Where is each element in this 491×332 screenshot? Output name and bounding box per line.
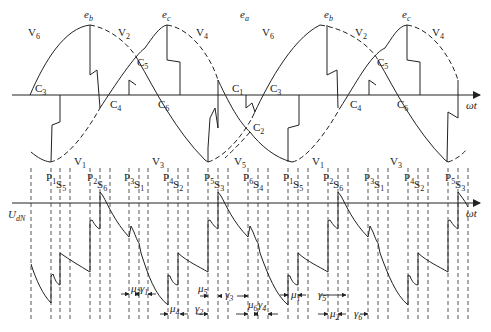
emf-label: ec <box>162 8 171 23</box>
voltage-labels-bottom: V1V3V5V1V3 <box>74 155 402 170</box>
voltage-label: V6 <box>28 26 40 41</box>
voltage-label: V3 <box>390 155 402 170</box>
udn-waveform <box>31 192 468 305</box>
interval-label: μ6 <box>247 298 258 313</box>
emf-label: eb <box>84 8 93 23</box>
pulse-label: S6 <box>97 178 107 193</box>
pulse-label: P5 <box>204 171 214 186</box>
pulse-labels: P1S5P2S6P3S1P4S2P5S3P6S4P1S5P2S6P3S1P4S2… <box>46 171 465 193</box>
commutation-label: C4 <box>350 98 361 113</box>
commutation-label: C2 <box>253 121 264 136</box>
interval-label: μ1 <box>290 288 301 303</box>
interval-label: γ1 <box>140 282 148 297</box>
voltage-label: V4 <box>432 26 444 41</box>
voltage-label: V1 <box>312 155 324 170</box>
interval-label: γ5 <box>318 288 326 303</box>
interval-label: γ4 <box>258 298 266 313</box>
interval-label: μ5 <box>197 282 208 297</box>
commutation-labels: C3C5C4C6C1C2C3C4C5C6 <box>35 56 408 136</box>
top-panel: ebeceaebec V6V2V4V6V2V4 V1V3V5V1V3 C3C5C… <box>12 8 480 170</box>
pulse-label: S2 <box>414 178 424 193</box>
emf-label: eb <box>324 8 333 23</box>
emf-labels: ebeceaebec <box>84 8 411 23</box>
commutation-label: C4 <box>110 98 121 113</box>
bottom-axis-label: ωt <box>466 207 478 219</box>
interval-label: γ3 <box>225 288 233 303</box>
pulse-label: P4 <box>404 171 414 186</box>
pulse-label: S3 <box>214 178 224 193</box>
pulse-label: P5 <box>445 171 455 186</box>
pulse-label: S3 <box>455 178 465 193</box>
waveform-diagram: ebeceaebec V6V2V4V6V2V4 V1V3V5V1V3 C3C5C… <box>0 0 491 332</box>
emf-label: ea <box>240 8 249 23</box>
diagram-canvas: ebeceaebec V6V2V4V6V2V4 V1V3V5V1V3 C3C5C… <box>0 0 491 332</box>
bottom-panel: P1S5P2S6P3S1P4S2P5S3P6S4P1S5P2S6P3S1P4S2… <box>8 168 480 322</box>
interval-label: γ6 <box>354 307 362 322</box>
voltage-label: V4 <box>196 26 208 41</box>
commutation-label: C6 <box>158 98 169 113</box>
voltage-label: V5 <box>234 155 246 170</box>
emf-label: ec <box>402 8 411 23</box>
pulse-label: P3 <box>364 171 374 186</box>
pulse-label: S1 <box>374 178 384 193</box>
top-axis-label: ωt <box>466 99 478 111</box>
interval-label: μ3 <box>130 282 141 297</box>
pulse-label: P2 <box>87 171 97 186</box>
voltage-label: V2 <box>355 26 367 41</box>
y-axis-label: UdN <box>8 208 26 223</box>
pulse-label: S5 <box>56 178 66 193</box>
commutation-label: C6 <box>397 98 408 113</box>
voltage-label: V1 <box>74 155 86 170</box>
interval-label: γ2 <box>195 302 203 317</box>
voltage-label: V6 <box>262 26 274 41</box>
voltage-label: V3 <box>152 155 164 170</box>
